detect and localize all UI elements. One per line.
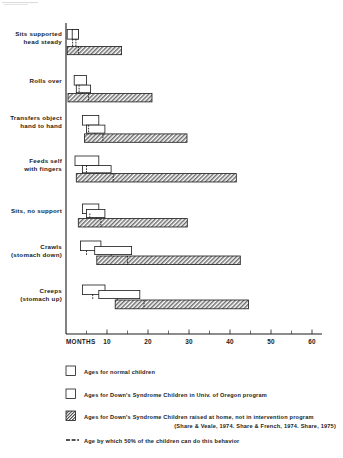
x-axis-title: MONTHS <box>66 338 96 345</box>
legend-item-median: Age by which 50% of the children can do … <box>66 438 240 444</box>
bar-oregon <box>72 30 78 40</box>
bar-normal <box>82 116 98 126</box>
legend-label: Ages for Down's Syndrome Children in Uni… <box>84 392 267 398</box>
bar-home <box>68 94 152 102</box>
category-label: hand to hand <box>20 122 62 129</box>
figure-background <box>0 0 343 458</box>
bar-home <box>97 256 241 265</box>
legend-label: Age by which 50% of the children can do … <box>84 438 240 444</box>
x-tick-label: 40 <box>226 338 234 345</box>
legend-swatch-open <box>66 366 76 376</box>
category-label: Feeds self <box>29 157 62 164</box>
category-label: Crawls <box>40 243 62 250</box>
legend-swatch-hatched <box>66 411 76 421</box>
category-label: (stomach up) <box>20 295 62 302</box>
x-tick-label: 60 <box>308 338 316 345</box>
bar-home <box>115 300 248 309</box>
category-label: head steady <box>23 38 62 45</box>
legend-swatch-open <box>66 389 76 399</box>
legend-citation: (Share & Veale, 1974. Share & French, 19… <box>174 423 336 429</box>
bar-oregon <box>76 85 90 93</box>
category-label: Transfers object <box>10 114 62 121</box>
category-label: Creeps <box>40 287 63 294</box>
chart-figure: Sits supported head steady Rolls over Tr… <box>0 0 343 458</box>
category-label: Sits supported <box>15 30 62 37</box>
bar-oregon <box>87 210 105 218</box>
x-tick-label: 20 <box>144 338 152 345</box>
category-label: (stomach down) <box>11 251 62 258</box>
bar-normal <box>74 76 86 86</box>
category-label: with fingers <box>23 165 62 172</box>
bar-normal <box>75 156 99 166</box>
x-tick-label: 10 <box>103 338 111 345</box>
bar-home <box>67 47 121 55</box>
x-tick-label: 30 <box>185 338 193 345</box>
bar-home <box>78 219 187 227</box>
bar-oregon <box>99 291 140 299</box>
legend-label: Ages for normal children <box>84 369 155 375</box>
bar-oregon <box>87 125 105 133</box>
bar-home <box>85 134 188 142</box>
bar-home <box>76 174 236 182</box>
legend-label: Ages for Down's Syndrome Children raised… <box>84 414 314 420</box>
bar-oregon <box>95 247 132 255</box>
category-label: Sits, no support <box>11 207 62 214</box>
category-label: Rolls over <box>30 77 63 84</box>
x-tick-label: 50 <box>267 338 275 345</box>
